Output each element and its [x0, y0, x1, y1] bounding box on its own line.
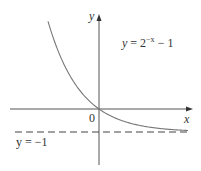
function-label-exponent: −x	[146, 35, 155, 44]
y-axis-arrow-icon	[97, 14, 102, 21]
function-label-suffix: − 1	[155, 36, 174, 50]
function-label: y = 2−x − 1	[122, 36, 173, 49]
x-axis-label: x	[184, 113, 189, 125]
x-axis-arrow-icon	[186, 107, 193, 112]
asymptote-label: y = −1	[16, 136, 48, 148]
origin-label: 0	[89, 112, 95, 124]
function-graph: y x 0 y = 2−x − 1 y = −1	[0, 0, 201, 171]
y-axis-label: y	[89, 10, 94, 22]
